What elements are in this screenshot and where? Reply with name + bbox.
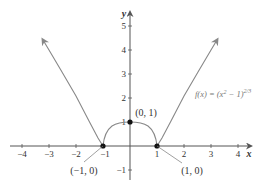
curve-left-branch xyxy=(43,40,103,146)
x-tick-label: −2 xyxy=(71,149,81,159)
point-label-1-0: (1, 0) xyxy=(181,165,203,177)
x-tick-label: −3 xyxy=(44,149,54,159)
x-axis-label: x xyxy=(246,148,252,159)
y-tick-label: −1 xyxy=(116,165,126,175)
y-axis-label: y xyxy=(121,8,127,19)
x-tick-label: 2 xyxy=(182,149,187,159)
x-tick-label: 3 xyxy=(209,149,214,159)
y-tick-label: 5 xyxy=(122,21,127,31)
y-tick-label: 3 xyxy=(122,69,127,79)
function-graph: −4 −3 −2 −1 1 2 3 4 −1 1 2 3 4 5 x y (−1… xyxy=(0,0,273,187)
point-label-0-1: (0, 1) xyxy=(135,107,157,119)
leader-line-right xyxy=(157,146,182,163)
function-label: f(x) = (x2 − 1)2/3 xyxy=(195,88,251,99)
point-0-1 xyxy=(127,119,132,124)
y-tick-label: 4 xyxy=(122,45,127,55)
x-tick-label: 1 xyxy=(155,149,160,159)
x-tick-label: −1 xyxy=(100,149,110,159)
point-label-neg1-0: (−1, 0) xyxy=(70,165,97,177)
y-tick-label: 2 xyxy=(122,93,127,103)
x-tick-label: −4 xyxy=(17,149,27,159)
x-tick-label: 4 xyxy=(236,149,241,159)
